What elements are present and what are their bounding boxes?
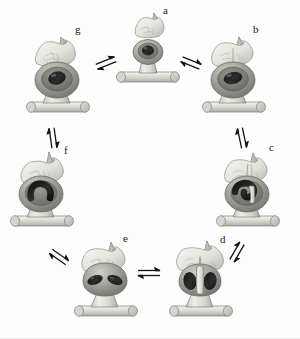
cup-a xyxy=(133,40,163,65)
stage-a-graphic xyxy=(111,6,189,98)
stage-c[interactable]: c xyxy=(213,146,291,238)
arrow-e-to-f xyxy=(44,244,73,270)
stage-e-graphic xyxy=(71,236,149,328)
stage-f[interactable]: f xyxy=(9,146,87,238)
tube-a xyxy=(117,72,180,82)
cap-a xyxy=(135,13,164,38)
stage-b[interactable]: b xyxy=(199,32,277,124)
stage-d-label: d xyxy=(220,234,226,245)
tube-g xyxy=(27,102,90,112)
tube-d xyxy=(170,306,233,316)
cup-f xyxy=(19,176,63,212)
cup-g xyxy=(35,62,79,98)
stage-b-label: b xyxy=(253,24,259,35)
stage-c-graphic xyxy=(213,146,291,238)
stage-f-label: f xyxy=(64,145,68,156)
cup-b xyxy=(211,62,255,98)
stage-b-graphic xyxy=(199,32,277,124)
stage-f-graphic xyxy=(9,146,87,238)
cup-c xyxy=(225,176,269,212)
tube-f xyxy=(11,216,74,226)
stage-c-label: c xyxy=(269,142,274,153)
stage-g-label: g xyxy=(75,24,81,35)
arrow-d-to-e xyxy=(135,266,163,280)
stage-a-label: a xyxy=(163,5,168,16)
tube-b xyxy=(203,102,266,112)
tube-c xyxy=(217,216,280,226)
stage-a[interactable]: a xyxy=(111,6,189,98)
stage-e[interactable]: e xyxy=(71,236,149,328)
arrow-f-to-g xyxy=(44,124,61,152)
stage-g[interactable]: g xyxy=(23,32,101,124)
stage-g-graphic xyxy=(23,32,101,124)
tube-e xyxy=(75,306,138,316)
cup-e xyxy=(83,263,127,296)
stage-e-label: e xyxy=(123,233,128,244)
diagram-canvas: g a xyxy=(0,0,300,339)
